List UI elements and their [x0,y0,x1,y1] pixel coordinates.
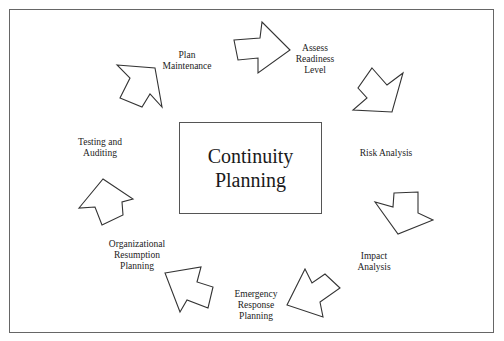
arrow-to-risk-analysis-icon [353,68,403,112]
step-plan-maintenance: Plan Maintenance [162,50,211,72]
arrow-to-organizational-resumption-icon [165,267,213,312]
arrow-to-assess-readiness-icon [234,22,290,73]
center-title: Continuity Planning [208,144,294,192]
step-organizational-resumption-planning: Organizational Resumption Planning [109,239,165,272]
step-assess-readiness-level: Assess Readiness Level [296,43,335,76]
center-box: Continuity Planning [179,122,322,214]
arrow-to-impact-analysis-icon [375,192,433,234]
step-testing-and-auditing: Testing and Auditing [78,137,122,159]
arrow-to-emergency-response-icon [287,269,340,317]
step-impact-analysis: Impact Analysis [357,251,390,273]
step-emergency-response-planning: Emergency Response Planning [234,289,277,322]
step-risk-analysis: Risk Analysis [360,148,413,159]
arrow-to-plan-maintenance-icon [117,65,162,107]
arrow-to-testing-auditing-icon [79,179,133,225]
